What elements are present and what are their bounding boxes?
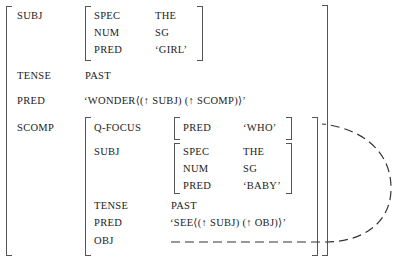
structure-sharing-link: [0, 0, 398, 262]
